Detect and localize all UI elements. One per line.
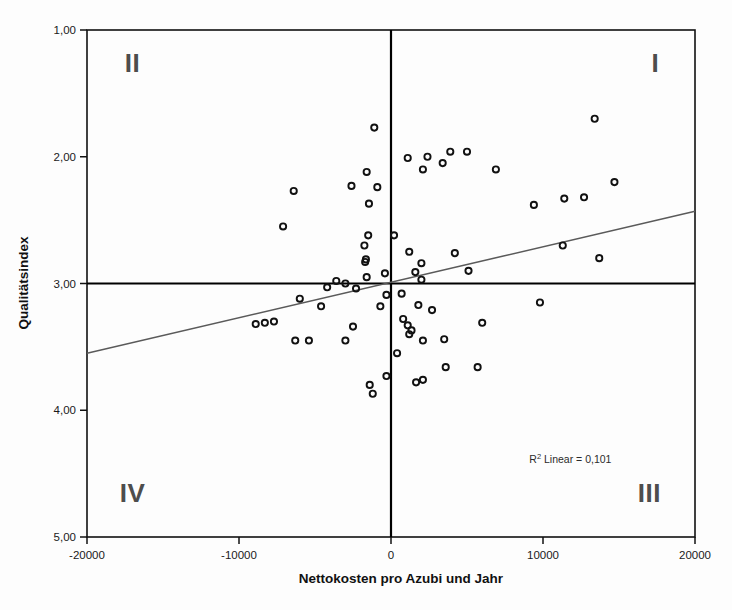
- x-tick-label: 20000: [679, 549, 711, 561]
- y-tick-label: 1,00: [54, 24, 76, 36]
- x-axis-ticks: -20000-1000001000020000: [69, 537, 711, 561]
- quadrant-label-III: III: [638, 478, 661, 508]
- y-axis-title: Qualitätsindex: [16, 236, 31, 330]
- plot-canvas: -20000-1000001000020000 1,002,003,004,00…: [0, 0, 732, 610]
- quadrant-label-II: II: [125, 48, 140, 78]
- y-tick-label: 3,00: [54, 278, 76, 290]
- quadrant-label-IV: IV: [120, 478, 146, 508]
- x-tick-label: -20000: [69, 549, 105, 561]
- x-tick-label: 10000: [527, 549, 559, 561]
- r-squared-annotation: R2 Linear = 0,101: [529, 452, 611, 465]
- y-axis-ticks: 1,002,003,004,005,00: [54, 24, 87, 543]
- y-tick-label: 2,00: [54, 151, 76, 163]
- x-tick-label: 0: [388, 549, 394, 561]
- x-tick-label: -10000: [221, 549, 257, 561]
- quadrant-label-I: I: [652, 48, 660, 78]
- y-tick-label: 4,00: [54, 404, 76, 416]
- y-tick-label: 5,00: [54, 531, 76, 543]
- scatter-plot-figure: -20000-1000001000020000 1,002,003,004,00…: [0, 0, 732, 610]
- x-axis-title: Nettokosten pro Azubi und Jahr: [299, 571, 504, 586]
